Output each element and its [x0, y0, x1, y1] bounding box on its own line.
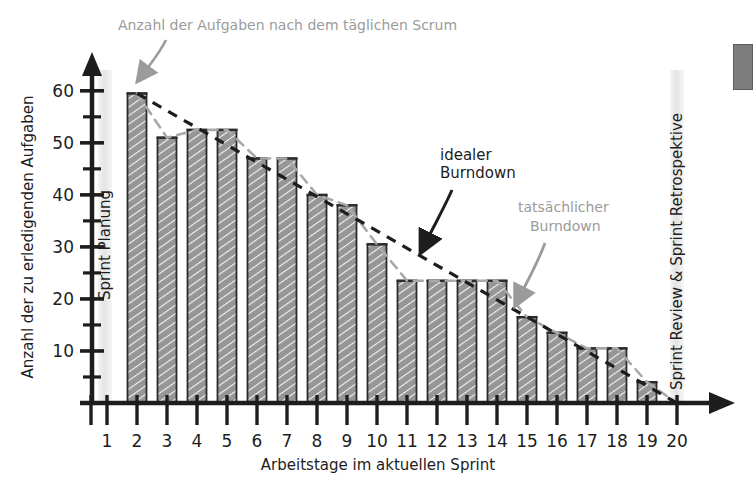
bar-day-8: [307, 195, 328, 403]
top-annotation-label: Anzahl der Aufgaben nach dem täglichen S…: [118, 17, 457, 33]
x-tick-label-8: 8: [312, 431, 323, 451]
x-tick-label-11: 11: [396, 431, 418, 451]
bar-day-5: [217, 130, 238, 403]
y-axis-title: Anzahl der zu erledigenden Aufgaben: [19, 96, 37, 379]
bar-day-10: [367, 244, 388, 403]
bar-day-11: [397, 281, 418, 403]
actual-annotation-line2: Burndown: [530, 218, 601, 234]
bar-day-6: [247, 158, 268, 403]
y-tick-label-40: 40: [52, 185, 74, 205]
y-tick-label-20: 20: [52, 289, 74, 309]
bar-day-3: [157, 138, 178, 403]
x-tick-label-4: 4: [192, 431, 203, 451]
bar-day-16: [547, 333, 568, 403]
y-tick-label-10: 10: [52, 341, 74, 361]
sprint-review-label: Sprint Review & Sprint Retrospektive: [668, 113, 686, 390]
x-axis-title: Arbeitstage im aktuellen Sprint: [261, 456, 495, 474]
x-tick-label-14: 14: [486, 431, 508, 451]
ideal-annotation-line2: Burndown: [440, 164, 516, 182]
bar-day-15: [517, 317, 538, 403]
bar-day-2: [127, 93, 148, 403]
x-tick-label-13: 13: [456, 431, 478, 451]
bar-day-12: [427, 281, 448, 403]
bar-day-7: [277, 158, 298, 403]
y-tick-label-60: 60: [52, 81, 74, 101]
bar-day-9: [337, 205, 358, 403]
x-tick-label-12: 12: [426, 431, 448, 451]
x-tick-label-15: 15: [516, 431, 538, 451]
y-tick-label-30: 30: [52, 237, 74, 257]
x-tick-label-9: 9: [342, 431, 353, 451]
x-tick-label-2: 2: [132, 431, 143, 451]
x-tick-label-1: 1: [102, 431, 113, 451]
actual-annotation-line1: tatsächlicher: [518, 199, 609, 215]
sprint-planung-label: Sprint Planung: [96, 190, 114, 300]
x-tick-label-5: 5: [222, 431, 233, 451]
bar-day-13: [457, 281, 478, 403]
burndown-chart-figure: 102030405060 123456789101112131415161718…: [0, 0, 753, 486]
x-tick-label-7: 7: [282, 431, 293, 451]
x-tick-label-16: 16: [546, 431, 568, 451]
burndown-chart-svg: 102030405060 123456789101112131415161718…: [0, 0, 753, 486]
scroll-thumb[interactable]: [733, 44, 753, 90]
x-tick-label-18: 18: [606, 431, 628, 451]
ideal-annotation-line1: idealer: [440, 146, 493, 164]
bar-day-4: [187, 130, 208, 403]
x-tick-label-20: 20: [666, 431, 688, 451]
x-tick-label-10: 10: [366, 431, 388, 451]
x-tick-label-3: 3: [162, 431, 173, 451]
x-tick-label-19: 19: [636, 431, 658, 451]
y-tick-label-50: 50: [52, 133, 74, 153]
x-tick-label-17: 17: [576, 431, 598, 451]
x-tick-label-6: 6: [252, 431, 263, 451]
